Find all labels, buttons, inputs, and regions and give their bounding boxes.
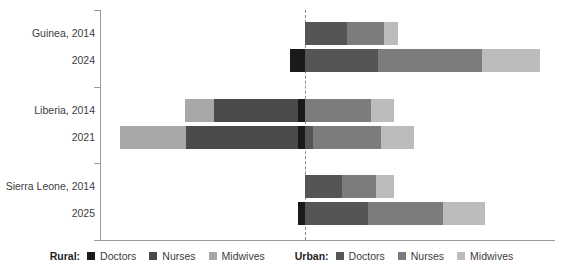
y-axis-tick-top <box>94 10 100 11</box>
bar-segment-urban-nurses <box>305 99 371 122</box>
legend-swatch-icon <box>209 252 217 260</box>
legend-label: Nurses <box>162 250 195 262</box>
legend-swatch-icon <box>149 252 157 260</box>
bar-segment-urban-nurses <box>313 126 381 149</box>
bar-segment-rural-midwives <box>120 126 186 149</box>
x-axis-line <box>100 240 555 241</box>
bar-segment-rural-doctors <box>290 49 305 72</box>
chart-legend: Rural: DoctorsNursesMidwives Urban: Doct… <box>0 247 563 265</box>
bar-row <box>0 22 563 45</box>
bar-segment-urban-nurses <box>347 22 384 45</box>
chart-container: Guinea, 2014 2024 Liberia, 2014 2021 Sie… <box>0 0 563 268</box>
bar-segment-urban-doctors <box>305 126 313 149</box>
legend-item-urban-midwives[interactable]: Midwives <box>457 250 513 262</box>
legend-item-urban-nurses[interactable]: Nurses <box>398 250 444 262</box>
bar-row <box>0 202 563 225</box>
legend-title-rural: Rural: <box>50 250 80 262</box>
bar-segment-urban-doctors <box>305 22 347 45</box>
legend-swatch-icon <box>398 252 406 260</box>
bar-segment-urban-midwives <box>384 22 398 45</box>
bar-row <box>0 126 563 149</box>
legend-swatch-icon <box>336 252 344 260</box>
bar-row <box>0 175 563 198</box>
bar-segment-urban-midwives <box>443 202 485 225</box>
bar-segment-urban-doctors <box>305 175 342 198</box>
legend-group-rural: Rural: DoctorsNursesMidwives <box>50 250 265 262</box>
y-axis-tick-group-2 <box>94 163 100 164</box>
bar-segment-urban-midwives <box>376 175 394 198</box>
bar-segment-urban-midwives <box>482 49 540 72</box>
bar-segment-rural-doctors <box>298 126 305 149</box>
bar-segment-urban-doctors <box>305 202 368 225</box>
bar-segment-urban-nurses <box>378 49 482 72</box>
bar-row <box>0 49 563 72</box>
legend-item-rural-midwives[interactable]: Midwives <box>209 250 265 262</box>
bar-segment-urban-doctors <box>305 49 378 72</box>
legend-label: Midwives <box>470 250 513 262</box>
legend-item-rural-nurses[interactable]: Nurses <box>149 250 195 262</box>
y-axis-tick-bottom <box>94 240 100 241</box>
legend-item-rural-doctors[interactable]: Doctors <box>87 250 136 262</box>
bar-segment-rural-nurses <box>214 99 298 122</box>
bar-segment-urban-nurses <box>342 175 376 198</box>
bar-segment-rural-doctors <box>298 99 305 122</box>
legend-title-urban: Urban: <box>295 250 329 262</box>
legend-swatch-icon <box>87 252 95 260</box>
bar-segment-urban-midwives <box>381 126 414 149</box>
legend-label: Nurses <box>411 250 444 262</box>
legend-group-urban: Urban: DoctorsNursesMidwives <box>295 250 513 262</box>
legend-item-urban-doctors[interactable]: Doctors <box>336 250 385 262</box>
bar-segment-rural-midwives <box>185 99 214 122</box>
legend-label: Doctors <box>349 250 385 262</box>
legend-label: Midwives <box>222 250 265 262</box>
y-axis-tick-group-1 <box>94 87 100 88</box>
bar-segment-urban-nurses <box>368 202 443 225</box>
bar-segment-urban-midwives <box>371 99 394 122</box>
bar-row <box>0 99 563 122</box>
legend-label: Doctors <box>100 250 136 262</box>
bar-segment-rural-doctors <box>298 202 305 225</box>
legend-swatch-icon <box>457 252 465 260</box>
bar-segment-rural-nurses <box>186 126 298 149</box>
